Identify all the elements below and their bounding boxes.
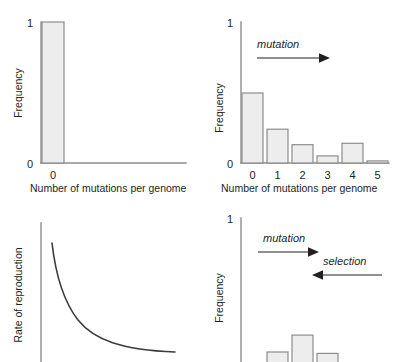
selection-arrow-head-icon: [312, 270, 323, 280]
panel-after-mutation: 1 0 0 1 2 3 4 5 Frequency mutation: [199, 0, 398, 190]
bar-1: [267, 352, 288, 362]
mutation-arrow-head-icon: [308, 247, 319, 257]
mutation-arrow-head-icon: [319, 53, 330, 63]
reproduction-rate-curve: [52, 243, 175, 352]
mutation-arrow-group: mutation: [257, 38, 330, 63]
bar-3: [317, 156, 338, 163]
y-tick-label-bottom: 0: [227, 158, 233, 170]
mutation-arrow-group: mutation: [258, 232, 319, 257]
mutation-selection-figure: 1 0 0 Frequency Number of mutations per …: [0, 0, 398, 362]
bar-1: [267, 129, 288, 163]
y-axis-title: Frequency: [213, 82, 225, 132]
bar-2: [292, 145, 313, 163]
y-axis-title: Frequency: [213, 272, 225, 322]
y-tick-label-top: 1: [227, 17, 233, 29]
y-tick-label-top: 1: [227, 213, 233, 225]
bar-2: [292, 335, 313, 362]
panel-reproduction-rate: Rate of reproduction: [0, 190, 199, 362]
selection-arrow-group: selection: [312, 255, 382, 280]
panel-mutation-selection-balance: 1 Frequency mutation selection: [199, 190, 398, 362]
y-tick-label-bottom: 0: [27, 158, 33, 170]
bar-3: [317, 353, 338, 362]
y-axis-title: Rate of reproduction: [12, 247, 24, 342]
bar-0: [42, 22, 64, 163]
mutation-label: mutation: [257, 38, 299, 50]
bar-0: [242, 93, 263, 163]
bar-5: [367, 161, 388, 163]
bar-4: [342, 143, 363, 163]
y-axis-title: Frequency: [12, 67, 24, 117]
panel-initial-distribution: 1 0 0 Frequency: [0, 0, 199, 190]
mutation-label: mutation: [263, 232, 305, 244]
selection-label: selection: [323, 255, 366, 267]
y-tick-label-top: 1: [27, 17, 33, 29]
